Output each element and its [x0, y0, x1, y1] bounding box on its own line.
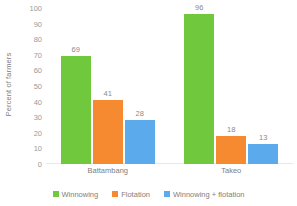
x-axis-category-labels: BattambangTakeo	[46, 166, 293, 180]
bar-value-label: 18	[227, 125, 235, 134]
y-axis-tick-label: 10	[34, 144, 42, 153]
y-axis-tick-label: 80	[34, 35, 42, 44]
y-axis-title-text: Percent of farmers	[5, 52, 14, 116]
bar-value-label: 28	[136, 109, 144, 118]
legend-label: Flotation	[121, 190, 150, 199]
bar-value-label: 69	[72, 45, 80, 54]
legend-item[interactable]: Winnowing + flotation	[164, 190, 245, 199]
y-axis-tick-label: 70	[34, 50, 42, 59]
bar-slot: 18	[216, 8, 246, 164]
bar-slot: 96	[184, 8, 214, 164]
bar[interactable]	[61, 56, 91, 164]
legend-swatch-icon	[53, 191, 59, 197]
bar-value-label: 41	[104, 89, 112, 98]
bar[interactable]	[248, 144, 278, 164]
legend-label: Winnowing	[62, 190, 99, 199]
x-axis-category-label: Battambang	[88, 166, 128, 175]
bar-slot: 69	[61, 8, 91, 164]
bar-group: 961813	[170, 8, 294, 164]
y-axis-tick-label: 0	[38, 160, 42, 169]
plot-area: 694128961813	[46, 8, 293, 164]
y-axis-tick-label: 60	[34, 66, 42, 75]
bar[interactable]	[184, 14, 214, 164]
y-axis-tick-labels: 0102030405060708090100	[18, 8, 44, 164]
y-axis-tick-label: 90	[34, 19, 42, 28]
y-axis-tick-label: 40	[34, 97, 42, 106]
bar[interactable]	[125, 120, 155, 164]
bar[interactable]	[216, 136, 246, 164]
bar-value-label: 96	[195, 3, 203, 12]
x-axis-category-label: Takeo	[221, 166, 241, 175]
legend-item[interactable]: Flotation	[112, 190, 150, 199]
y-axis-tick-label: 20	[34, 128, 42, 137]
y-axis-tick-label: 50	[34, 82, 42, 91]
y-axis-tick-label: 100	[29, 4, 42, 13]
bar-slot: 13	[248, 8, 278, 164]
bar[interactable]	[93, 100, 123, 164]
legend-swatch-icon	[164, 191, 170, 197]
bar-value-label: 13	[259, 133, 267, 142]
legend-item[interactable]: Winnowing	[53, 190, 99, 199]
bar-slot: 28	[125, 8, 155, 164]
bar-chart: Percent of farmers 010203040506070809010…	[0, 0, 297, 206]
legend-swatch-icon	[112, 191, 118, 197]
bar-slot: 41	[93, 8, 123, 164]
y-axis-tick-label: 30	[34, 113, 42, 122]
y-axis-title: Percent of farmers	[0, 0, 18, 168]
bar-group: 694128	[46, 8, 170, 164]
chart-legend: WinnowingFlotationWinnowing + flotation	[0, 186, 297, 202]
legend-label: Winnowing + flotation	[173, 190, 245, 199]
